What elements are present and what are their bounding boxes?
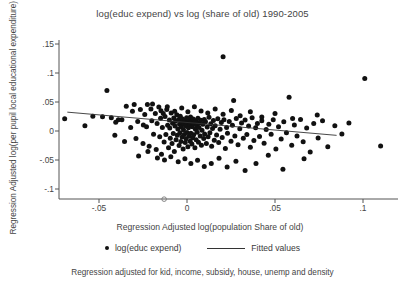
scatter-points bbox=[62, 54, 383, 173]
x-axis-label: Regression Adjusted log(population Share… bbox=[30, 222, 390, 232]
line-marker-icon bbox=[207, 248, 245, 249]
chart-footnote: Regression adjusted for kid, income, sub… bbox=[0, 268, 405, 277]
chart-legend: log(educ expend) Fitted values bbox=[0, 243, 405, 253]
legend-label-scatter: log(educ expend) bbox=[115, 243, 181, 253]
legend-label-line: Fitted values bbox=[251, 243, 300, 253]
x-tick-marks bbox=[99, 199, 363, 203]
scatter-marker-icon bbox=[105, 246, 109, 250]
legend-entry-scatter: log(educ expend) bbox=[105, 243, 181, 253]
chart-figure: log(educ expend) vs log (share of old) 1… bbox=[0, 0, 405, 295]
y-tick-marks bbox=[55, 44, 59, 189]
legend-entry-line: Fitted values bbox=[207, 243, 300, 253]
